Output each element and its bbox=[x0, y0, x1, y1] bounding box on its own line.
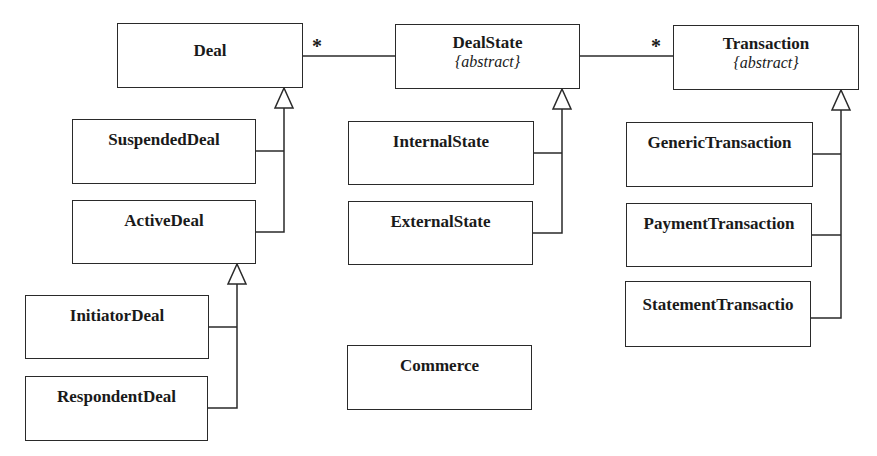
class-name: Transaction bbox=[674, 34, 858, 54]
multiplicity-deal-dealstate: * bbox=[312, 36, 322, 56]
generalization-line-activedeal bbox=[207, 284, 237, 408]
class-paymenttransaction[interactable]: PaymentTransaction bbox=[626, 203, 812, 267]
class-name: StatementTransactio bbox=[626, 295, 810, 315]
class-name: DealState bbox=[396, 33, 579, 53]
class-name: ActiveDeal bbox=[73, 211, 255, 231]
class-activedeal[interactable]: ActiveDeal bbox=[72, 200, 256, 264]
class-name: InitiatorDeal bbox=[26, 306, 208, 326]
generalization-arrow-transaction bbox=[832, 90, 850, 110]
class-stereotype: {abstract} bbox=[674, 54, 858, 72]
class-generictransaction[interactable]: GenericTransaction bbox=[626, 122, 813, 187]
class-name: InternalState bbox=[349, 132, 533, 152]
multiplicity-dealstate-transaction: * bbox=[651, 36, 661, 56]
class-dealstate[interactable]: DealState {abstract} bbox=[395, 24, 580, 89]
class-name: RespondentDeal bbox=[26, 387, 207, 407]
class-commerce[interactable]: Commerce bbox=[347, 345, 532, 410]
class-deal[interactable]: Deal bbox=[117, 23, 303, 88]
class-statementtransaction[interactable]: StatementTransactio bbox=[625, 281, 811, 347]
generalization-arrow-activedeal bbox=[228, 264, 246, 284]
class-externalstate[interactable]: ExternalState bbox=[348, 201, 533, 265]
generalization-line-transaction bbox=[810, 110, 841, 318]
class-initiatordeal[interactable]: InitiatorDeal bbox=[25, 295, 209, 359]
generalization-line-deal bbox=[255, 108, 284, 232]
class-stereotype: {abstract} bbox=[396, 53, 579, 71]
class-name: PaymentTransaction bbox=[627, 214, 811, 234]
class-name: Deal bbox=[118, 41, 302, 61]
class-name: SuspendedDeal bbox=[73, 130, 255, 150]
generalization-arrow-dealstate bbox=[553, 89, 571, 109]
class-name: ExternalState bbox=[349, 212, 532, 232]
generalization-arrow-deal bbox=[275, 88, 293, 108]
class-suspendeddeal[interactable]: SuspendedDeal bbox=[72, 119, 256, 184]
class-transaction[interactable]: Transaction {abstract} bbox=[673, 25, 859, 90]
generalization-line-dealstate bbox=[532, 109, 562, 233]
class-internalstate[interactable]: InternalState bbox=[348, 121, 534, 185]
class-name: GenericTransaction bbox=[627, 133, 812, 153]
class-name: Commerce bbox=[348, 356, 531, 376]
class-respondentdeal[interactable]: RespondentDeal bbox=[25, 376, 208, 441]
